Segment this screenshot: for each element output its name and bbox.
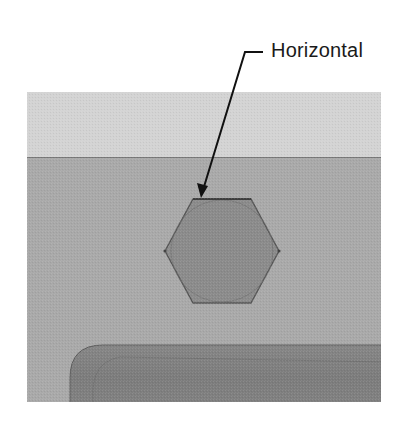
callout-label-horizontal: Horizontal [271,38,363,62]
diagram-canvas: Horizontal [0,0,411,426]
texture-overlay [27,92,381,402]
diagram-svg [0,0,411,426]
cad-viewport-panel [27,92,385,410]
